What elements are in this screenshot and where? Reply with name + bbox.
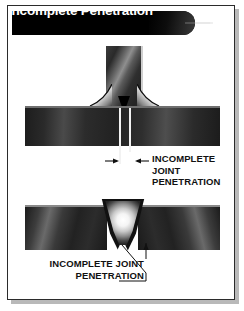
- tee-dimension-arrows: [104, 156, 150, 166]
- tee-callout-line-1: INCOMPLETE: [152, 153, 220, 165]
- groove-callout-label: INCOMPLETE JOINT PENETRATION: [36, 258, 144, 281]
- groove-callout-line-1: INCOMPLETE JOINT: [36, 258, 144, 270]
- tee-callout-line-2: JOINT: [152, 165, 220, 177]
- starburst-sparkle-icon: [185, 8, 229, 38]
- tee-horizontal-member-top-highlight: [25, 106, 220, 108]
- tee-callout-line-3: PENETRATION: [152, 176, 220, 188]
- tee-horizontal-member: [25, 108, 220, 146]
- tee-callout-label: INCOMPLETE JOINT PENETRATION: [152, 153, 220, 188]
- groove-base-plate-left: [25, 207, 107, 250]
- figure-root: Incomplete Penetration: [0, 0, 244, 311]
- page-title: Incomplete Penetration: [8, 3, 153, 18]
- groove-callout-line-2: PENETRATION: [36, 270, 144, 282]
- tee-extension-line-right: [129, 108, 131, 152]
